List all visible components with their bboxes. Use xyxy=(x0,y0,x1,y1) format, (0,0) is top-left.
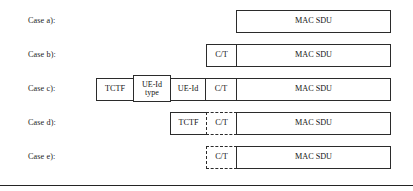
case-row: Case e):C/TMAC SDU xyxy=(0,145,413,179)
field-ue-id: UE-Id xyxy=(170,78,206,101)
field-label: TCTF xyxy=(97,85,133,93)
figure-bottom-rule xyxy=(0,185,413,186)
case-label: Case b): xyxy=(28,50,56,59)
field-label: MAC SDU xyxy=(237,153,390,161)
field-ct: C/T xyxy=(206,146,237,169)
field-ue-id-type: UE-Id type xyxy=(133,75,171,102)
field-ct: C/T xyxy=(206,44,237,67)
field-mac-sdu: MAC SDU xyxy=(236,44,391,67)
case-label: Case a): xyxy=(28,16,55,25)
field-mac-sdu: MAC SDU xyxy=(236,78,391,101)
case-row: Case b):C/TMAC SDU xyxy=(0,43,413,77)
field-label: UE-Id xyxy=(171,85,205,93)
field-label: MAC SDU xyxy=(237,17,390,25)
field-label: C/T xyxy=(206,85,236,93)
field-tctf: TCTF xyxy=(170,112,207,135)
case-row: Case a):MAC SDU xyxy=(0,9,413,43)
field-label: MAC SDU xyxy=(237,119,390,127)
mac-pdu-format-figure: Case a):MAC SDUCase b):C/TMAC SDUCase c)… xyxy=(0,0,413,191)
field-label: C/T xyxy=(207,51,236,59)
field-tctf: TCTF xyxy=(96,78,134,101)
field-label: C/T xyxy=(207,119,236,127)
field-mac-sdu: MAC SDU xyxy=(236,146,391,169)
field-label: TCTF xyxy=(171,119,206,127)
case-label: Case c): xyxy=(28,84,55,93)
case-label: Case d): xyxy=(28,118,56,127)
field-label: MAC SDU xyxy=(237,85,390,93)
case-row: Case c):TCTFUE-Id typeUE-IdC/TMAC SDU xyxy=(0,77,413,111)
field-label: C/T xyxy=(207,153,236,161)
case-row: Case d):TCTFC/TMAC SDU xyxy=(0,111,413,145)
case-label: Case e): xyxy=(28,152,55,161)
field-label: UE-Id type xyxy=(134,81,170,97)
field-mac-sdu: MAC SDU xyxy=(236,10,391,33)
field-ct: C/T xyxy=(205,78,237,101)
field-ct: C/T xyxy=(206,112,237,135)
field-mac-sdu: MAC SDU xyxy=(236,112,391,135)
field-label: MAC SDU xyxy=(237,51,390,59)
